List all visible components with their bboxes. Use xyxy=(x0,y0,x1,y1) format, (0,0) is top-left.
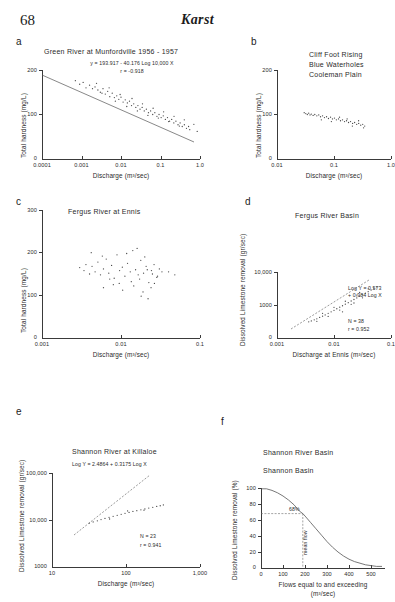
panel-b-y-axis-title-text: Total hardness (mg/L) xyxy=(255,93,262,158)
panel-e-letter: e xyxy=(16,406,22,417)
panel-c-y-axis-title: Total hardness (mg/L) xyxy=(20,268,27,333)
panel-b-letter: b xyxy=(251,36,257,47)
panel-f-ylabel-80: 80 xyxy=(241,501,256,507)
panel-d-letter: d xyxy=(245,196,251,207)
panel-b-title-1: Cliff Foot Rising xyxy=(309,51,363,58)
panel-f-title-2: Shannon Basin xyxy=(263,467,314,474)
panel-b-y-axis-title: Total hardness (mg/L) xyxy=(255,93,262,158)
panel-a-x-axis-title: Discharge (m³/sec) xyxy=(93,172,150,179)
panel-d-xlabel-3: 0.1 xyxy=(387,341,395,347)
panel-e-y-axis-title-text: Dissolved Limestone removal (gr/sec) xyxy=(18,460,25,572)
panel-a-plot-area xyxy=(42,70,200,159)
panel-a-letter: a xyxy=(16,36,22,47)
panel-e-y-axis-title: Dissolved Limestone removal (gr/sec) xyxy=(18,460,25,572)
panel-b-title-2: Blue Waterholes xyxy=(309,61,364,68)
panel-d-x-axis-title: Discharge at Ennis (m³/sec) xyxy=(293,351,376,358)
panel-a-xlabel-4: 0.1 xyxy=(156,162,164,168)
panel-b-x-axis-title: Discharge (m³/sec) xyxy=(306,172,363,179)
panel-a-xlabel-3: 0.01 xyxy=(115,162,126,168)
panel-f-y-axis-title: Dissolved Limestone removal (%) xyxy=(231,480,238,580)
panel-d-xlabel-2: 0.01 xyxy=(328,341,339,347)
panel-f-x-axis-title-text-2: (m³/sec) xyxy=(311,590,336,597)
panel-a-ylabel-200: 200 xyxy=(20,67,37,73)
panel-f-ylabel-20: 20 xyxy=(241,549,256,555)
panel-d-ylabel-0: 0 xyxy=(249,334,272,340)
panel-a-xlabel-5: 1.0 xyxy=(196,162,204,168)
panel-a-title: Green River at Munfordville 1956 - 1957 xyxy=(44,48,178,55)
panel-e-plot-area xyxy=(52,473,200,567)
panel-f-xlabel-400: 400 xyxy=(344,571,354,577)
panel-d-y-axis-title-text: Dissolved Limestone removal (gr/sec) xyxy=(239,234,246,346)
panel-a-equation: y = 193.917 - 40.176 Log 10,000 X xyxy=(90,60,173,66)
panel-f-xlabel-500: 500 xyxy=(366,571,376,577)
panel-c-ylabel-200: 200 xyxy=(20,249,37,255)
panel-f-ylabel-0: 0 xyxy=(241,564,256,570)
panel-e-xlabel-2: 100 xyxy=(121,570,131,576)
running-head: Karst xyxy=(0,12,395,28)
panel-d-ylabel-1000: 1000 xyxy=(249,302,272,308)
panel-c-ylabel-300: 300 xyxy=(20,207,37,213)
panel-c: c Fergus River at Ennis 300 200 100 0 0.… xyxy=(14,196,204,361)
panel-f-ylabel-40: 40 xyxy=(241,533,256,539)
panel-a-y-axis-title-text: Total hardness (mg/L) xyxy=(20,93,27,158)
panel-b-xlabel-1: 0.01 xyxy=(271,162,282,168)
panel-b-xlabel-3: 1.0 xyxy=(387,162,395,168)
panel-d-xtick-3 xyxy=(391,335,392,338)
panel-b-plot-area xyxy=(277,70,391,159)
panel-f-x-axis-title-1: Flows equal to and exceeding xyxy=(279,581,368,588)
panel-b-xlabel-2: 0.1 xyxy=(330,162,338,168)
figure-page: 68 Karst a Green River at Munfordville 1… xyxy=(0,0,395,602)
panel-a-x-axis-title-text: Discharge (m³/sec) xyxy=(93,172,150,179)
panel-f-title-1: Shannon River Basin xyxy=(263,449,334,456)
panel-c-xtick-3 xyxy=(200,335,201,338)
panel-c-xlabel-3: 0.1 xyxy=(196,341,204,347)
panel-d-plot-area xyxy=(277,272,391,338)
panel-c-ylabel-0: 0 xyxy=(20,334,37,340)
panel-f-plot-area xyxy=(261,488,385,568)
panel-e-x-axis-title-text: Discharge (m³/sec) xyxy=(98,580,155,587)
panel-b: b Cliff Foot Rising Blue Waterholes Cool… xyxy=(205,36,395,186)
panel-f-x-axis-title-2: (m³/sec) xyxy=(311,590,336,597)
panel-d-x-axis-title-text: Discharge at Ennis (m³/sec) xyxy=(293,351,376,358)
panel-f: f Shannon River Basin Shannon Basin 100 … xyxy=(205,400,395,590)
panel-c-plot-area xyxy=(42,210,200,338)
panel-a-xtick-5 xyxy=(200,156,201,159)
panel-c-letter: c xyxy=(16,196,21,207)
panel-c-xlabel-2: 0.01 xyxy=(115,341,126,347)
panel-d-xlabel-1: 0.001 xyxy=(270,341,285,347)
panel-e: e Shannon River at Killaloe Log Y = 2.48… xyxy=(14,400,204,590)
panel-f-xlabel-100: 100 xyxy=(278,571,288,577)
panel-f-letter: f xyxy=(221,416,224,427)
panel-a-y-axis-title: Total hardness (mg/L) xyxy=(20,93,27,158)
panel-e-xtick-3 xyxy=(200,564,201,567)
panel-a: a Green River at Munfordville 1956 - 195… xyxy=(14,36,204,186)
panel-b-ylabel-200: 200 xyxy=(255,67,272,73)
panel-c-y-axis-title-text: Total hardness (mg/L) xyxy=(20,268,27,333)
panel-b-xtick-3 xyxy=(391,156,392,159)
panel-d: d Fergus River Basin 10,000 1000 0 0.001… xyxy=(205,196,395,361)
panel-f-xlabel-200: 200 xyxy=(300,571,310,577)
panel-b-x-axis-title-text: Discharge (m³/sec) xyxy=(306,172,363,179)
panel-f-ylabel-60: 60 xyxy=(241,517,256,523)
panel-c-x-axis-title: Discharge (m³/sec) xyxy=(93,351,150,358)
panel-a-xlabel-2: 0.001 xyxy=(74,162,89,168)
panel-e-title: Shannon River at Killaloe xyxy=(72,448,157,455)
panel-f-x-axis-title-text-1: Flows equal to and exceeding xyxy=(279,581,368,588)
panel-e-x-axis-title: Discharge (m³/sec) xyxy=(98,580,155,587)
panel-f-xlabel-300: 300 xyxy=(322,571,332,577)
panel-e-xlabel-1: 10 xyxy=(49,570,55,576)
panel-f-y-axis-title-text: Dissolved Limestone removal (%) xyxy=(231,480,238,580)
panel-d-title: Fergus River Basin xyxy=(295,212,359,219)
panel-e-equation: Log Y = 2.4864 + 0.3175 Log X xyxy=(72,461,147,467)
panel-c-xlabel-1: 0.001 xyxy=(35,341,50,347)
panel-f-xlabel-0: 0 xyxy=(259,571,262,577)
panel-d-ylabel-10000: 10,000 xyxy=(249,269,272,275)
panel-f-ylabel-100: 100 xyxy=(241,485,256,491)
panel-d-y-axis-title: Dissolved Limestone removal (gr/sec) xyxy=(239,234,246,346)
panel-c-x-axis-title-text: Discharge (m³/sec) xyxy=(93,351,150,358)
panel-a-xlabel-1: 0.0001 xyxy=(33,162,51,168)
